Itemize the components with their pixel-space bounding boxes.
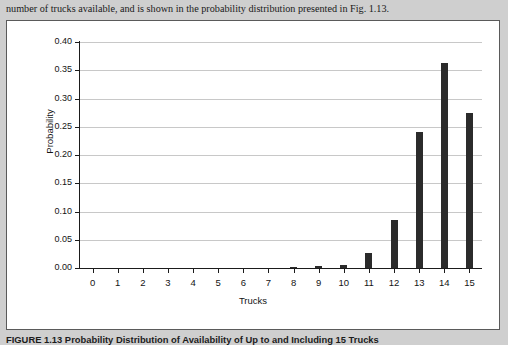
y-axis-line [79, 41, 80, 269]
y-tick-label: 0.05 [38, 235, 72, 244]
y-tick-label: 0.15 [38, 178, 72, 187]
gridline [80, 42, 482, 43]
y-tick-label: 0.40 [38, 37, 72, 46]
y-tick-label: 0.25 [38, 122, 72, 131]
x-tick-label: 13 [407, 278, 431, 288]
y-tick-label: 0.10 [38, 207, 72, 216]
x-tick-label: 9 [307, 278, 331, 288]
y-axis-label: Probability [44, 109, 55, 153]
x-tick-label: 15 [457, 278, 481, 288]
gridline [80, 99, 482, 100]
bar [466, 113, 473, 268]
x-tick-label: 10 [332, 278, 356, 288]
x-axis-label: Trucks [7, 295, 499, 306]
y-tick-label: 0.00 [38, 263, 72, 272]
y-tick-label: 0.20 [38, 150, 72, 159]
x-tick-label: 3 [156, 278, 180, 288]
bar [416, 132, 423, 268]
bar [365, 253, 372, 268]
figure-frame: Probability 0.000.050.100.150.200.250.30… [6, 20, 500, 330]
figure-caption: FIGURE 1.13 Probability Distribution of … [6, 334, 502, 345]
x-tick-label: 14 [432, 278, 456, 288]
bar [391, 220, 398, 268]
x-tick-label: 7 [256, 278, 280, 288]
gridline [80, 70, 482, 71]
probability-distribution-chart: Probability 0.000.050.100.150.200.250.30… [7, 21, 499, 329]
x-tick-label: 2 [131, 278, 155, 288]
x-tick-label: 5 [206, 278, 230, 288]
x-tick-label: 1 [106, 278, 130, 288]
x-axis-line [79, 268, 482, 269]
x-tick-label: 11 [357, 278, 381, 288]
y-tick-label: 0.30 [38, 94, 72, 103]
plot-inner: 0.000.050.100.150.200.250.300.350.40 012… [80, 42, 482, 268]
x-tick-label: 0 [81, 278, 105, 288]
y-tick-label: 0.35 [38, 65, 72, 74]
gridline [80, 127, 482, 128]
x-tick-label: 8 [282, 278, 306, 288]
x-tick-label: 6 [231, 278, 255, 288]
bar [441, 63, 448, 268]
plot-area: 0.000.050.100.150.200.250.300.350.40 012… [80, 42, 482, 268]
x-tick-label: 4 [181, 278, 205, 288]
body-paragraph-text: number of trucks available, and is shown… [6, 2, 502, 15]
x-tick-label: 12 [382, 278, 406, 288]
